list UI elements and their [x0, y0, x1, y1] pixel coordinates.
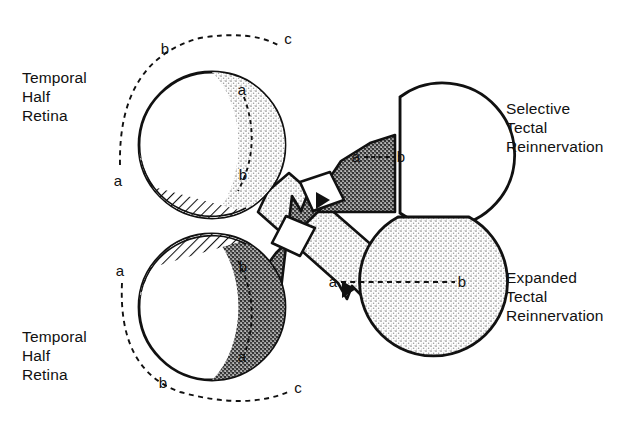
lower-retina-inner-label-a: a [238, 348, 247, 365]
lower-tectum-body [360, 217, 508, 356]
caption-temporal-half-retina-lower: Temporal Half Retina [22, 327, 87, 384]
upper-retina-inner-label-a: a [238, 81, 247, 98]
upper-retina-outer-label-a: a [114, 172, 123, 189]
upper-tectum-body [400, 83, 515, 227]
figure-canvas: a b a b a [0, 0, 635, 437]
lower-tectum-label-b: b [458, 273, 466, 290]
lower-retina: b a [139, 234, 285, 380]
lower-retina-outer-label-c: c [294, 379, 302, 396]
upper-retina-outer-label-b: b [161, 40, 169, 57]
upper-retina: a b [139, 72, 285, 218]
lower-retina-outer-label-b: b [159, 374, 167, 391]
lower-tectum-label-a: a [329, 273, 338, 290]
retinotectal-diagram: a b a b a [0, 0, 635, 437]
upper-tectum-label-a: a [352, 148, 361, 165]
upper-retina-outer-label-c: c [284, 30, 292, 47]
lower-retina-inner-label-b: b [239, 258, 247, 275]
caption-expanded-tectal-reinnervation: Expanded Tectal Reinnervation [506, 268, 604, 325]
upper-retina-inner-label-b: b [239, 166, 247, 183]
caption-selective-tectal-reinnervation: Selective Tectal Reinnervation [506, 99, 604, 156]
lower-retina-outer-label-a: a [116, 262, 125, 279]
caption-temporal-half-retina-upper: Temporal Half Retina [22, 68, 87, 125]
upper-tectum-label-b: b [397, 148, 405, 165]
